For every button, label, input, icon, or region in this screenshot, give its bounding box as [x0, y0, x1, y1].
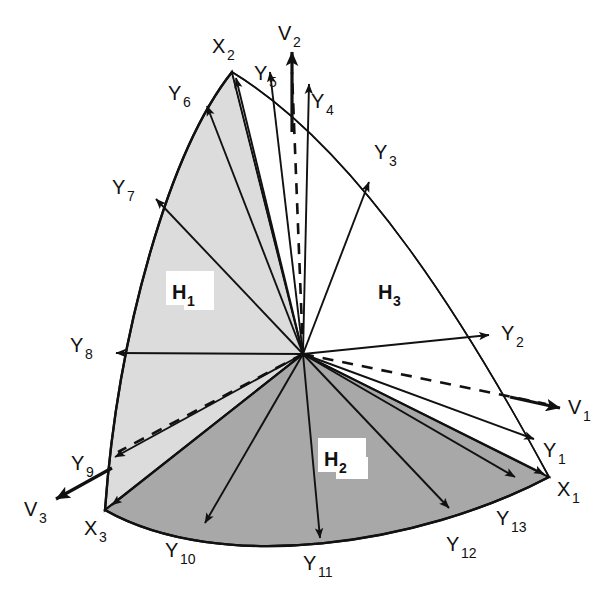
y-Y10-subscript: 10 [180, 551, 196, 567]
v-V3-letter: V [24, 498, 38, 520]
v-V3-subscript: 3 [39, 510, 47, 526]
y-Y6-letter: Y [168, 82, 181, 104]
region-H3-letter: H [378, 281, 392, 303]
y-Y9-letter: Y [71, 452, 84, 474]
y-label-Y1: Y 1 [543, 439, 566, 467]
y-Y8-subscript: 8 [85, 346, 93, 362]
y-label-Y7: Y 7 [112, 176, 135, 204]
y-Y4-subscript: 4 [326, 102, 334, 118]
y-label-Y6: Y 6 [168, 82, 191, 110]
v-V2-subscript: 2 [293, 34, 301, 50]
region-H2-letter: H [324, 448, 338, 470]
y-Y2-subscript: 2 [516, 334, 524, 350]
v-label-V2: V 2 [278, 22, 301, 50]
y-Y7-letter: Y [112, 176, 125, 198]
y-Y6-subscript: 6 [183, 94, 191, 110]
vertex-X1-letter: X [557, 478, 570, 500]
y-Y1-letter: Y [543, 439, 556, 461]
y-Y1-subscript: 1 [558, 451, 566, 467]
y-Y13-subscript: 13 [511, 519, 527, 535]
y-label-Y9: Y 9 [71, 452, 94, 480]
y-Y9-subscript: 9 [86, 464, 94, 480]
y-Y7-subscript: 7 [127, 188, 135, 204]
y-label-Y8: Y 8 [70, 334, 93, 362]
vertex-label-X1: X 1 [557, 478, 580, 506]
vertex-X3-letter: X [84, 517, 97, 539]
y-Y8-letter: Y [70, 334, 83, 356]
y-label-Y10: Y 10 [165, 539, 196, 567]
v-label-V3: V 3 [24, 498, 47, 526]
v1-vector [510, 397, 560, 408]
vertex-X2-letter: X [212, 35, 225, 57]
y-Y4-letter: Y [311, 90, 324, 112]
v-V2-letter: V [278, 22, 292, 44]
region-H2-subscript: 2 [339, 460, 347, 476]
v-V1-subscript: 1 [583, 408, 591, 424]
spherical-triangle-diagram: H 1 H 2 H 3 X 1 X 2 X 3 V 1 [0, 0, 614, 594]
region-H3-subscript: 3 [393, 293, 401, 309]
vertex-label-X3: X 3 [84, 517, 107, 545]
vertex-X3-subscript: 3 [99, 529, 107, 545]
v-V1-letter: V [568, 396, 582, 418]
y-Y11-subscript: 11 [318, 564, 333, 580]
y-Y2-letter: Y [501, 322, 514, 344]
y-Y5-subscript: 5 [269, 74, 277, 90]
region-H1-subscript: 1 [187, 293, 195, 309]
v-label-V1: V 1 [568, 396, 591, 424]
y-Y12-letter: Y [446, 533, 459, 555]
y-Y3-letter: Y [374, 141, 387, 163]
region-label-H1: H 1 [166, 271, 214, 310]
y-label-Y4: Y 4 [311, 90, 334, 118]
y-label-Y3: Y 3 [374, 141, 397, 169]
vertex-X1-subscript: 1 [572, 490, 580, 506]
y-label-Y11: Y 11 [303, 552, 333, 580]
y-label-Y12: Y 12 [446, 533, 477, 561]
y-Y13-letter: Y [496, 507, 509, 529]
y-Y3-subscript: 3 [389, 153, 397, 169]
y-label-Y2: Y 2 [501, 322, 524, 350]
diagram-canvas: H 1 H 2 H 3 X 1 X 2 X 3 V 1 [0, 0, 614, 594]
y8-vector [116, 353, 303, 354]
y-label-Y13: Y 13 [496, 507, 527, 535]
y-Y10-letter: Y [165, 539, 178, 561]
region-H1-letter: H [172, 281, 186, 303]
y-Y5-letter: Y [254, 62, 267, 84]
vertex-label-X2: X 2 [212, 35, 235, 63]
vertex-X2-subscript: 2 [227, 47, 235, 63]
y-Y11-letter: Y [303, 552, 316, 574]
y-Y12-subscript: 12 [461, 545, 477, 561]
y-label-Y5: Y 5 [254, 62, 277, 90]
